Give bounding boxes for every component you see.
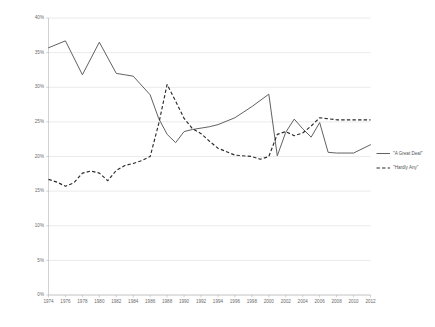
chart-canvas: 0%5%10%15%20%25%30%35%40% 19741976197819…: [0, 0, 435, 327]
legend: "A Great Deal""Hardly Any": [377, 151, 423, 171]
series-line-hardly-any: [49, 84, 371, 186]
y-tick-label: 30%: [35, 84, 44, 89]
y-axis-tick-labels: 0%5%10%15%20%25%30%35%40%: [35, 15, 44, 297]
x-tick-label: 2008: [331, 299, 342, 304]
x-tick-label: 1990: [179, 299, 190, 304]
x-tick-label: 1994: [213, 299, 224, 304]
x-axis-tick-labels: 1974197619781980198219841986198819901992…: [43, 299, 376, 304]
gridlines-group: [49, 18, 371, 295]
x-tick-label: 1992: [196, 299, 207, 304]
line-chart: 0%5%10%15%20%25%30%35%40% 19741976197819…: [0, 0, 435, 327]
x-tick-label: 1986: [145, 299, 156, 304]
x-tick-label: 2012: [365, 299, 376, 304]
axes-group: [46, 18, 370, 297]
x-tick-label: 1996: [230, 299, 241, 304]
x-tick-label: 1988: [162, 299, 173, 304]
series-group: [49, 41, 371, 186]
x-tick-label: 1980: [94, 299, 105, 304]
y-tick-label: 10%: [35, 223, 44, 228]
x-tick-label: 1976: [60, 299, 71, 304]
x-tick-label: 1998: [247, 299, 258, 304]
x-tick-label: 1982: [111, 299, 122, 304]
x-tick-label: 2010: [348, 299, 359, 304]
y-tick-label: 20%: [35, 154, 44, 159]
y-tick-label: 5%: [37, 258, 44, 263]
x-tick-label: 2006: [315, 299, 326, 304]
y-tick-label: 40%: [35, 15, 44, 20]
y-tick-label: 0%: [37, 292, 44, 297]
legend-label-hardly-any: "Hardly Any": [393, 165, 419, 170]
x-tick-label: 2002: [281, 299, 292, 304]
x-tick-label: 1984: [128, 299, 139, 304]
x-tick-label: 2000: [264, 299, 275, 304]
series-line-a-great-deal: [49, 41, 371, 156]
legend-label-a-great-deal: "A Great Deal": [393, 151, 423, 156]
y-tick-label: 35%: [35, 50, 44, 55]
y-tick-label: 15%: [35, 188, 44, 193]
x-tick-label: 1974: [43, 299, 54, 304]
x-tick-label: 2004: [298, 299, 309, 304]
y-tick-label: 25%: [35, 119, 44, 124]
x-tick-label: 1978: [77, 299, 88, 304]
